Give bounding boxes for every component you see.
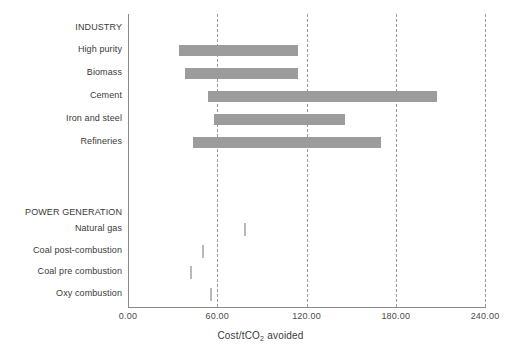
gridline-240.00 — [485, 14, 486, 307]
x-axis-title-suffix: avoided — [264, 330, 303, 341]
category-label-cement: Cement — [0, 90, 122, 100]
category-label-power-generation-heading: POWER GENERATION — [0, 207, 122, 217]
x-axis-title: Cost/tCO2 avoided — [0, 330, 521, 341]
x-tick-label-60.00: 60.00 — [205, 311, 229, 321]
category-label-high-purity: High purity — [0, 44, 122, 54]
x-tick-label-240.00: 240.00 — [471, 311, 500, 321]
x-tick-label-0.00: 0.00 — [119, 311, 137, 321]
x-tick-label-180.00: 180.00 — [381, 311, 410, 321]
gridline-120.00 — [307, 14, 308, 307]
range-bar-cement — [208, 91, 437, 102]
plot-area — [128, 14, 485, 307]
x-axis-title-main: Cost/tCO — [217, 330, 260, 341]
category-label-oxy-combustion: Oxy combustion — [0, 288, 122, 298]
chart-container: 0.0060.00120.00180.00240.00 INDUSTRYHigh… — [0, 0, 521, 357]
category-label-coal-post-combustion: Coal post-combustion — [0, 245, 122, 255]
marker-oxy-combustion — [210, 288, 212, 301]
marker-natural-gas — [244, 223, 246, 236]
x-axis-title-subscript: 2 — [260, 335, 264, 342]
category-label-coal-pre-combustion: Coal pre combustion — [0, 266, 122, 276]
x-tick-label-120.00: 120.00 — [292, 311, 321, 321]
range-bar-iron-and-steel — [214, 114, 345, 125]
category-label-industry-heading: INDUSTRY — [0, 22, 122, 32]
category-label-iron-and-steel: Iron and steel — [0, 113, 122, 123]
gridline-60.00 — [217, 14, 218, 307]
category-label-refineries: Refineries — [0, 136, 122, 146]
gridline-180.00 — [396, 14, 397, 307]
marker-coal-pre-combustion — [190, 266, 192, 279]
range-bar-refineries — [193, 137, 380, 148]
marker-coal-post-combustion — [202, 245, 204, 258]
category-label-biomass: Biomass — [0, 67, 122, 77]
category-label-natural-gas: Natural gas — [0, 223, 122, 233]
x-axis-line — [128, 307, 486, 308]
range-bar-biomass — [185, 68, 298, 79]
range-bar-high-purity — [179, 45, 298, 56]
